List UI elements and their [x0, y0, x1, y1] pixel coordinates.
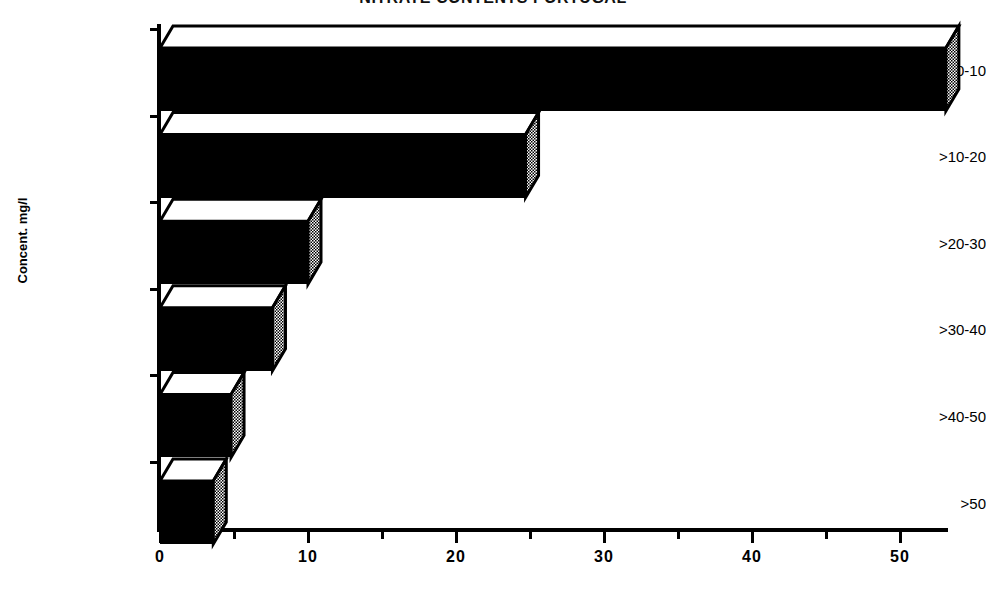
chart-container: NITRATE CONTENTS PORTUGAL Concent. mg/l …: [0, 0, 986, 603]
bar: [0, 0, 986, 603]
bar-side-face: [0, 0, 986, 603]
